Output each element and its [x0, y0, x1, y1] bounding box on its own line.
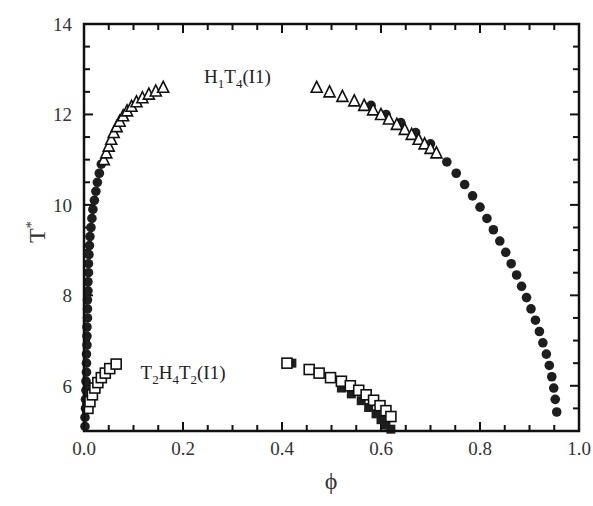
x-tick-label: 0.4: [270, 438, 294, 459]
data-point-circle: [538, 338, 548, 348]
data-point-circle: [550, 395, 560, 405]
y-tick-label: 10: [53, 195, 72, 216]
x-tick-label: 0.2: [171, 438, 195, 459]
data-point-triangle: [349, 95, 360, 106]
data-point-circle: [91, 187, 101, 197]
y-axis-title-sup: *: [23, 221, 39, 229]
data-point-circle: [549, 383, 559, 393]
data-point-circle: [547, 372, 557, 382]
data-point-circle: [460, 180, 470, 190]
data-point-circle: [85, 241, 95, 251]
data-point-circle: [552, 407, 562, 417]
x-tick-label: 0.8: [468, 438, 492, 459]
data-point-square: [111, 359, 121, 369]
data-point-circle: [90, 196, 100, 206]
data-point-circle: [495, 236, 505, 246]
data-point-square: [282, 358, 292, 368]
data-point-circle: [535, 327, 545, 337]
data-point-circle: [545, 361, 555, 371]
data-point-circle: [84, 250, 94, 260]
data-point-triangle: [324, 86, 335, 97]
data-point-circle: [468, 191, 478, 201]
data-point-square: [304, 364, 314, 374]
data-point-circle: [86, 223, 96, 233]
data-point-circle: [531, 315, 541, 325]
x-tick-label: 0.6: [369, 438, 393, 459]
x-tick-labels: 0.00.20.40.60.81.0: [72, 438, 591, 459]
y-axis-title: T*: [23, 221, 50, 243]
data-point-circle: [542, 349, 552, 359]
data-point-circle: [512, 270, 522, 280]
data-point-circle: [522, 293, 532, 303]
phase-diagram-chart: 0.00.20.40.60.81.0 68101214 ϕ T* H1T4(I1…: [0, 0, 593, 506]
x-axis-title: ϕ: [325, 468, 338, 494]
data-point-square: [386, 412, 396, 422]
svg-text:T*: T*: [23, 221, 50, 243]
phase-label: T2H4T2(I1): [141, 362, 226, 387]
data-point-circle: [489, 225, 499, 235]
data-point-triangle: [158, 81, 169, 92]
data-point-circle: [85, 232, 95, 242]
data-point-circle: [87, 214, 97, 224]
y-tick-label: 14: [53, 14, 73, 35]
data-point-circle: [506, 259, 516, 269]
data-point-circle: [95, 168, 105, 178]
y-tick-label: 6: [63, 376, 73, 397]
phase-label: H1T4(I1): [204, 66, 271, 91]
x-tick-label: 1.0: [567, 438, 591, 459]
data-point-circle: [517, 281, 527, 291]
data-point-triangle: [337, 90, 348, 101]
data-point-square-filled: [386, 425, 395, 434]
y-tick-label: 8: [63, 285, 73, 306]
data-point-circle: [451, 168, 461, 178]
data-point-square: [314, 368, 324, 378]
data-point-circle: [93, 177, 103, 187]
data-point-circle: [526, 304, 536, 314]
data-point-circle: [501, 248, 511, 258]
y-axis-title-main: T: [24, 228, 50, 243]
data-point-circle: [475, 202, 485, 212]
data-point-triangle: [311, 81, 322, 92]
y-tick-labels: 68101214: [53, 14, 73, 397]
x-tick-label: 0.0: [72, 438, 96, 459]
data-point-circle: [482, 214, 492, 224]
phase-annotations: H1T4(I1)T2H4T2(I1): [141, 66, 271, 387]
y-tick-label: 12: [53, 104, 72, 125]
data-point-square: [326, 373, 336, 383]
data-point-circle: [88, 205, 98, 215]
data-point-circle: [442, 157, 452, 167]
